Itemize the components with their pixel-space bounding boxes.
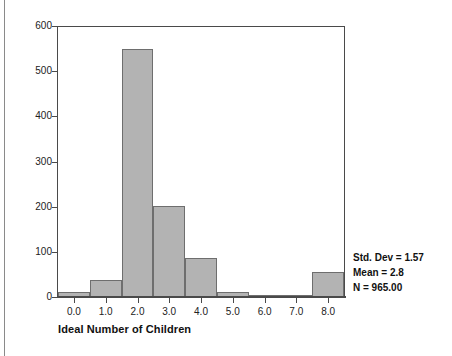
y-tick-label: 200 bbox=[22, 202, 52, 212]
y-axis: 600 500 400 300 200 100 0 bbox=[18, 0, 52, 356]
chart-area: 600 500 400 300 200 100 0 bbox=[0, 0, 452, 356]
y-tick-mark bbox=[52, 116, 57, 117]
y-tick-mark bbox=[52, 71, 57, 72]
bar-8 bbox=[312, 272, 344, 297]
y-tick-mark bbox=[52, 252, 57, 253]
x-tick-mark bbox=[201, 298, 202, 303]
x-tick-mark bbox=[296, 298, 297, 303]
y-tick-mark bbox=[52, 207, 57, 208]
x-tick-mark bbox=[265, 298, 266, 303]
histogram-figure: 600 500 400 300 200 100 0 bbox=[0, 0, 452, 356]
n-label: N = 965.00 bbox=[353, 280, 424, 295]
x-axis-title: Ideal Number of Children bbox=[58, 323, 191, 335]
bar-2 bbox=[122, 49, 154, 297]
x-tick-mark bbox=[74, 298, 75, 303]
mean-label: Mean = 2.8 bbox=[353, 265, 424, 280]
x-tick-mark bbox=[233, 298, 234, 303]
x-tick-mark bbox=[106, 298, 107, 303]
y-tick-label: 400 bbox=[22, 111, 52, 121]
y-tick-label: 600 bbox=[22, 21, 52, 31]
bar-1 bbox=[90, 280, 122, 297]
y-tick-mark bbox=[52, 162, 57, 163]
std-dev-label: Std. Dev = 1.57 bbox=[353, 250, 424, 265]
y-tick-label: 500 bbox=[22, 66, 52, 76]
statistics-annotation: Std. Dev = 1.57 Mean = 2.8 N = 965.00 bbox=[353, 250, 424, 295]
bar-series bbox=[58, 27, 344, 297]
y-tick-label: 0 bbox=[22, 292, 52, 302]
x-tick-mark bbox=[138, 298, 139, 303]
bar-4 bbox=[185, 258, 217, 297]
bar-3 bbox=[153, 206, 185, 297]
y-tick-mark bbox=[52, 26, 57, 27]
y-tick-label: 100 bbox=[22, 247, 52, 257]
x-tick-label: 8.0 bbox=[308, 306, 348, 318]
y-tick-label: 300 bbox=[22, 157, 52, 167]
x-tick-mark bbox=[169, 298, 170, 303]
x-tick-mark bbox=[328, 298, 329, 303]
